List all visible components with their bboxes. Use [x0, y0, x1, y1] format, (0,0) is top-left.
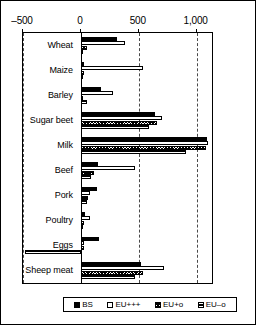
bar — [81, 112, 155, 116]
legend-swatch-icon — [198, 302, 204, 308]
category-label: Poultry — [46, 215, 73, 225]
bar — [81, 175, 91, 179]
bar — [81, 46, 87, 50]
bar — [81, 166, 135, 170]
bar — [81, 237, 100, 241]
legend-swatch-icon — [107, 302, 113, 308]
legend-item: EU–o — [198, 300, 226, 309]
bar — [81, 246, 84, 250]
bar-group: Poultry — [23, 212, 212, 230]
category-label: Milk — [57, 140, 73, 150]
bar — [81, 212, 85, 216]
bar — [81, 96, 83, 100]
category-label: Maize — [49, 65, 73, 75]
bar — [25, 250, 81, 254]
x-axis-tick-mark — [22, 29, 23, 33]
bar — [81, 146, 206, 150]
bar — [81, 41, 126, 45]
bar — [81, 87, 101, 91]
bar — [81, 275, 135, 279]
bar-group: Milk — [23, 137, 212, 155]
bar — [81, 125, 149, 129]
x-axis-tick-mark — [196, 29, 197, 33]
category-label: Sugar beet — [30, 115, 73, 125]
bar — [81, 75, 83, 79]
x-tick-label: 0 — [77, 15, 82, 27]
category-label: Pork — [55, 190, 73, 200]
x-tick-label: 1,000 — [184, 15, 208, 27]
category-label: Barley — [48, 90, 73, 100]
bar — [81, 91, 113, 95]
bar — [81, 62, 84, 66]
bar — [81, 196, 88, 200]
bar — [81, 66, 143, 70]
legend-label: BS — [82, 300, 93, 309]
bar — [81, 225, 83, 229]
x-axis-tick-mark — [80, 29, 81, 33]
category-label: Eggs — [53, 240, 73, 250]
legend-label: EU–o — [206, 300, 226, 309]
bar — [81, 271, 143, 275]
bar — [81, 116, 162, 120]
x-axis-labels: –50005001,000 — [1, 15, 256, 31]
bar — [81, 141, 208, 145]
x-tick-label: 500 — [130, 15, 146, 27]
plot-area: WheatMaizeBarleySugar beetMilkBeefPorkPo… — [22, 32, 213, 284]
category-label: Sheep meat — [25, 265, 73, 275]
bar-group: Sugar beet — [23, 112, 212, 130]
legend-swatch-icon — [74, 302, 80, 308]
x-tick-label: –500 — [11, 15, 32, 27]
bar-group: Maize — [23, 62, 212, 80]
bar — [81, 71, 84, 75]
legend-label: EU+o — [163, 300, 183, 309]
legend-item: EU+o — [155, 300, 183, 309]
legend-label: EU+++ — [115, 300, 140, 309]
bar — [81, 216, 90, 220]
chart-legend: BSEU+++EU+oEU–o — [63, 297, 237, 312]
bar — [81, 262, 141, 266]
bar — [81, 171, 94, 175]
bar — [81, 221, 84, 225]
bar-group: Pork — [23, 187, 212, 205]
category-label: Wheat — [47, 40, 73, 50]
bar-group: Barley — [23, 87, 212, 105]
bar-group: Beef — [23, 162, 212, 180]
legend-swatch-icon — [155, 302, 161, 308]
category-label: Beef — [55, 165, 73, 175]
bar — [81, 121, 157, 125]
bar-group: Sheep meat — [23, 262, 212, 280]
bar-group: Wheat — [23, 37, 212, 55]
bar — [81, 241, 84, 245]
bar — [81, 100, 87, 104]
bar — [81, 50, 83, 54]
bar — [81, 191, 90, 195]
bar — [81, 37, 117, 41]
bar — [81, 266, 164, 270]
bar-group: Eggs — [23, 237, 212, 255]
legend-item: BS — [74, 300, 93, 309]
bar — [81, 162, 98, 166]
x-axis-tick-mark — [138, 29, 139, 33]
chart-figure: –50005001,000 WheatMaizeBarleySugar beet… — [0, 0, 256, 325]
bar — [81, 150, 186, 154]
legend-item: EU+++ — [107, 300, 140, 309]
bar — [81, 187, 97, 191]
bar — [81, 137, 207, 141]
bar — [81, 200, 87, 204]
